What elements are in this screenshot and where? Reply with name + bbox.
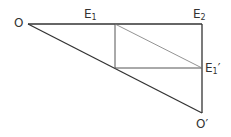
label-E1prime-main: E <box>205 61 213 75</box>
line-diagonal-inner <box>115 24 202 68</box>
label-E1-sub: 1 <box>92 13 97 22</box>
label-E2-main: E <box>193 7 201 21</box>
label-O: O <box>14 17 23 29</box>
label-Oprime: O′ <box>196 118 208 130</box>
label-E1prime: E1′ <box>205 62 220 76</box>
label-E2-sub: 2 <box>201 13 206 22</box>
label-E2: E2 <box>193 8 206 22</box>
label-E1-main: E <box>84 7 92 21</box>
label-E1prime-mark: ′ <box>218 61 221 75</box>
label-E1: E1 <box>84 8 97 22</box>
